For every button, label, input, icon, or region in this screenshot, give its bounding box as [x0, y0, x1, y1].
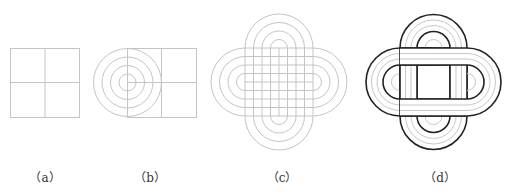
caption-b: （b）	[130, 168, 170, 185]
caption-a: （a）	[25, 168, 65, 185]
figure-d-knot	[366, 15, 501, 150]
figure-canvas	[0, 0, 511, 195]
caption-c: （c）	[262, 168, 302, 185]
figure-b-construction	[94, 49, 197, 118]
figure-c-construction	[211, 14, 347, 150]
caption-d: （d）	[420, 168, 460, 185]
figure-a-grid	[11, 49, 80, 118]
